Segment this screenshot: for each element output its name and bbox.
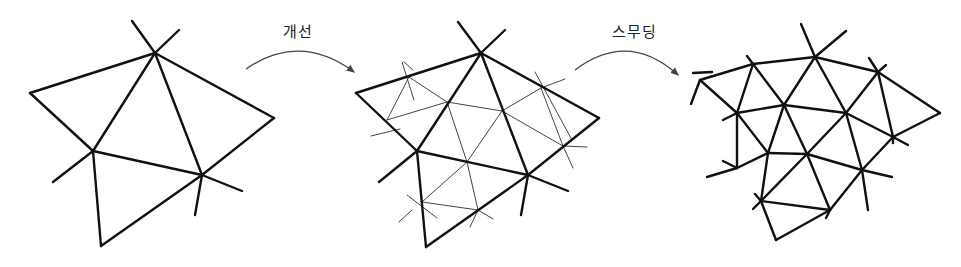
smoothed-mesh — [691, 24, 940, 240]
mesh-edge — [521, 175, 528, 215]
mesh-edge — [202, 175, 242, 191]
mesh-edge — [768, 153, 807, 154]
mesh-edge — [807, 154, 830, 210]
mesh-edge — [481, 30, 505, 53]
mesh-edge — [399, 210, 412, 222]
mesh-edge — [878, 65, 886, 72]
mesh-edge — [481, 53, 599, 118]
mesh-edge — [409, 77, 447, 102]
diagram-canvas — [0, 0, 961, 267]
mesh-edge — [93, 53, 155, 151]
step-label-smoothing: 스무딩 — [612, 20, 657, 41]
mesh-edge — [387, 77, 409, 120]
mesh-edge — [846, 113, 893, 137]
mesh-edge — [417, 53, 481, 151]
mesh-edge — [776, 210, 830, 240]
mesh-edge — [195, 175, 202, 215]
mesh-edge — [815, 31, 846, 57]
mesh-edge — [846, 113, 862, 170]
mesh-edge — [693, 72, 712, 73]
mesh-edge — [426, 175, 528, 247]
mesh-edge — [379, 151, 417, 182]
mesh-edge — [93, 151, 101, 246]
mesh-edge — [502, 88, 541, 111]
mesh-edge — [132, 21, 155, 53]
mesh-edge — [755, 194, 761, 201]
mesh-edge — [447, 102, 467, 162]
arrow-icon — [246, 51, 354, 72]
mesh-edge — [737, 153, 768, 168]
mesh-edge — [862, 137, 893, 170]
mesh-edge — [356, 53, 481, 93]
mesh-edge — [893, 113, 940, 137]
mesh-edge — [402, 62, 414, 100]
mesh-edge — [467, 162, 478, 210]
mesh-edge — [202, 118, 274, 175]
mesh-edge — [478, 210, 493, 219]
mesh-edge — [747, 56, 753, 64]
mesh-edge — [467, 111, 502, 162]
mesh-edge — [737, 113, 768, 153]
mesh-edge — [753, 57, 815, 64]
mesh-edge — [30, 93, 93, 151]
mesh-edge — [404, 62, 413, 70]
mesh-edge — [723, 113, 737, 120]
mesh-edge — [422, 162, 467, 202]
mesh-edge — [53, 151, 93, 182]
mesh-edge — [761, 201, 830, 210]
mesh-edge — [807, 154, 862, 170]
mesh-edge — [862, 170, 868, 210]
mesh-edge — [30, 53, 155, 93]
mesh-edge — [155, 53, 202, 175]
mesh-edge — [700, 80, 737, 113]
mesh-edge — [356, 93, 417, 151]
mesh-edge — [801, 24, 815, 57]
mesh-edge — [535, 72, 572, 140]
mesh-edge — [862, 170, 892, 177]
mesh-edge — [563, 146, 573, 168]
mesh-edge — [422, 202, 478, 210]
mesh-edge — [155, 30, 179, 53]
initial-mesh — [30, 21, 274, 246]
mesh-edge — [458, 22, 481, 53]
refined-mesh-subdivision — [371, 62, 587, 227]
mesh-edge — [807, 113, 846, 154]
mesh-edge — [784, 105, 807, 154]
mesh-edge — [830, 170, 862, 210]
mesh-edge — [893, 137, 908, 145]
mesh-edge — [784, 57, 815, 105]
mesh-edge — [541, 79, 565, 88]
mesh-edge — [784, 105, 846, 113]
mesh-edge — [815, 57, 846, 113]
mesh-edge — [707, 168, 737, 177]
mesh-edge — [737, 64, 753, 113]
mesh-edge — [691, 80, 700, 104]
step-label-refine: 개선 — [283, 20, 313, 41]
process-arrows — [246, 51, 678, 75]
mesh-edge — [846, 72, 878, 113]
mesh-edge — [101, 175, 202, 246]
mesh-edge — [563, 146, 587, 147]
mesh-edge — [447, 102, 502, 111]
refined-mesh — [356, 22, 599, 247]
mesh-edge — [528, 175, 568, 191]
mesh-edge — [737, 105, 784, 113]
mesh-edge — [93, 151, 202, 175]
mesh-edge — [528, 118, 599, 175]
mesh-edge — [481, 53, 528, 175]
mesh-edge — [753, 201, 761, 209]
mesh-refinement-diagram: 개선 스무딩 — [0, 0, 961, 267]
mesh-edge — [753, 64, 784, 105]
mesh-edge — [878, 72, 940, 113]
mesh-edge — [768, 105, 784, 153]
mesh-edge — [761, 201, 776, 240]
mesh-edge — [723, 161, 737, 168]
arrow-icon — [575, 51, 678, 75]
